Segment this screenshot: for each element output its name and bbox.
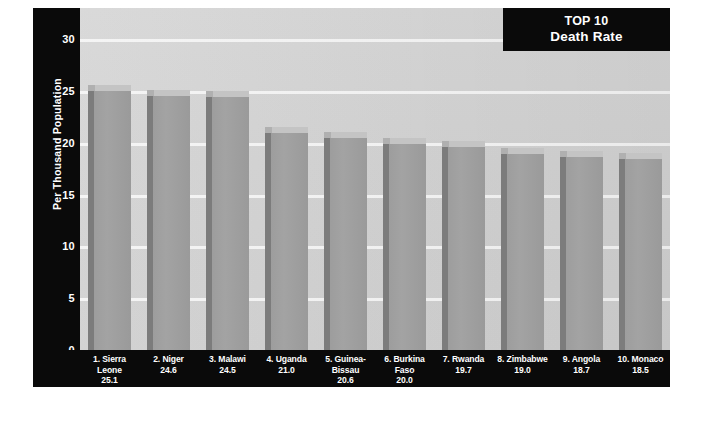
x-axis-label-name: 10. Monaco	[618, 354, 664, 364]
bar-face	[271, 132, 308, 350]
bar-top-bevel	[619, 153, 626, 159]
x-axis-labels: 1. SierraLeone25.12. Niger24.63. Malawi2…	[80, 350, 670, 387]
x-axis-label-name-cont: Bissau	[316, 365, 375, 376]
bar[interactable]	[442, 146, 485, 350]
y-axis-tick-label: 25	[62, 85, 75, 97]
x-axis-label-name: 2. Niger	[153, 354, 184, 364]
x-axis-label-value: 19.7	[434, 365, 493, 376]
x-axis-label-name: 7. Rwanda	[443, 354, 485, 364]
x-axis-label-value: 20.6	[316, 375, 375, 386]
x-axis-label-value: 19.0	[493, 365, 552, 376]
x-axis-label-value: 20.0	[375, 375, 434, 386]
y-axis: Per Thousand Population 051015202530	[33, 8, 80, 387]
bar-face	[448, 146, 485, 350]
x-axis-label: 3. Malawi24.5	[198, 350, 257, 387]
bar[interactable]	[619, 158, 662, 350]
bar-face	[330, 137, 367, 350]
y-axis-tick-label: 15	[62, 189, 75, 201]
y-axis-tick-label: 5	[69, 292, 75, 304]
bar-face	[566, 156, 603, 350]
x-axis-label: 9. Angola18.7	[552, 350, 611, 387]
x-axis-label: 8. Zimbabwe19.0	[493, 350, 552, 387]
bar-face	[212, 96, 249, 350]
chart-title-line-2: Death Rate	[550, 29, 623, 45]
x-axis-label-value: 25.1	[80, 375, 139, 386]
bar[interactable]	[383, 143, 426, 350]
bar-face	[625, 158, 662, 350]
chart-container: Per Thousand Population 051015202530 1. …	[0, 0, 705, 421]
x-axis-label-name: 1. Sierra	[93, 354, 126, 364]
x-axis-label: 2. Niger24.6	[139, 350, 198, 387]
x-axis-label: 4. Uganda21.0	[257, 350, 316, 387]
bar-top-bevel	[501, 148, 508, 154]
x-axis-label-name: 4. Uganda	[266, 354, 306, 364]
bar-face	[507, 153, 544, 350]
x-axis-label-value: 24.6	[139, 365, 198, 376]
bar-top-bevel	[265, 127, 272, 133]
chart-title-plate: TOP 10 Death Rate	[503, 8, 670, 51]
x-axis-label-value: 24.5	[198, 365, 257, 376]
bar-top-bevel	[442, 141, 449, 147]
y-axis-tick-label: 10	[62, 240, 75, 252]
x-axis-label: 1. SierraLeone25.1	[80, 350, 139, 387]
bars-group	[80, 8, 670, 350]
chart-title-line-1: TOP 10	[565, 14, 609, 29]
y-axis-tick-label: 20	[62, 137, 75, 149]
x-axis-label-name: 8. Zimbabwe	[497, 354, 547, 364]
bar-top-bevel	[147, 90, 154, 96]
x-axis-label-value: 18.5	[611, 365, 670, 376]
x-axis-label-value: 21.0	[257, 365, 316, 376]
x-axis-label: 10. Monaco18.5	[611, 350, 670, 387]
x-axis-label-name-cont: Leone	[80, 365, 139, 376]
bar[interactable]	[265, 132, 308, 350]
x-axis-label-value: 18.7	[552, 365, 611, 376]
bar-face	[389, 143, 426, 350]
bar-top-bevel	[206, 91, 213, 97]
x-axis-label: 5. Guinea-Bissau20.6	[316, 350, 375, 387]
x-axis-label-name: 6. Burkina	[384, 354, 425, 364]
bar[interactable]	[88, 90, 131, 350]
bar-top-bevel	[383, 138, 390, 144]
x-axis-label: 7. Rwanda19.7	[434, 350, 493, 387]
x-axis-label-name-cont: Faso	[375, 365, 434, 376]
x-axis-label-name: 3. Malawi	[209, 354, 246, 364]
bar[interactable]	[324, 137, 367, 350]
bar[interactable]	[560, 156, 603, 350]
bar[interactable]	[501, 153, 544, 350]
x-axis-label: 6. BurkinaFaso20.0	[375, 350, 434, 387]
bar-face	[94, 90, 131, 350]
bar[interactable]	[147, 95, 190, 350]
bar-top-bevel	[88, 85, 95, 91]
x-axis-label-name: 5. Guinea-	[325, 354, 366, 364]
bar[interactable]	[206, 96, 249, 350]
bar-top-bevel	[324, 132, 331, 138]
bar-top-bevel	[560, 151, 567, 157]
y-axis-tick-label: 30	[62, 33, 75, 45]
x-axis-label-name: 9. Angola	[563, 354, 600, 364]
bar-face	[153, 95, 190, 350]
